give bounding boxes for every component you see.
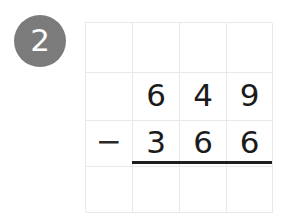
grid-cell-r1c0[interactable]: [86, 73, 133, 121]
grid-cell-r3c3-answer-ones[interactable]: [227, 167, 273, 213]
cell-value: 4: [193, 80, 213, 111]
grid-cell-r3c2-answer-tens[interactable]: [180, 167, 227, 213]
grid-cell-r0c3[interactable]: [227, 23, 273, 73]
grid-cell-r3c1-answer-hundreds[interactable]: [133, 167, 180, 213]
grid-cell-r3c0[interactable]: [86, 167, 133, 213]
question-number-label: 2: [30, 25, 50, 56]
cell-value: 9: [240, 80, 260, 111]
cell-value: 6: [193, 127, 213, 158]
grid-cell-r0c0[interactable]: [86, 23, 133, 73]
minus-sign-icon: −: [96, 126, 122, 157]
subtraction-worksheet-grid: 6 4 9 − 3 6 6: [85, 22, 272, 212]
question-number-badge: 2: [14, 15, 66, 67]
grid-cell-r1c1-minuend-hundreds[interactable]: 6: [133, 73, 180, 121]
grid-cell-r2c0-operator[interactable]: −: [86, 121, 133, 167]
cell-value: 3: [146, 127, 166, 158]
grid-cell-r0c1[interactable]: [133, 23, 180, 73]
answer-rule: [132, 161, 272, 164]
grid-cell-r1c2-minuend-tens[interactable]: 4: [180, 73, 227, 121]
cell-value: 6: [240, 127, 260, 158]
grid-cell-r1c3-minuend-ones[interactable]: 9: [227, 73, 273, 121]
cell-value: 6: [146, 80, 166, 111]
grid-cell-r0c2[interactable]: [180, 23, 227, 73]
